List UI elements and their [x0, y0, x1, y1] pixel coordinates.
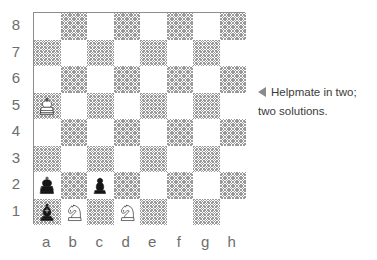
square-g3[interactable]: [193, 146, 220, 173]
square-h8[interactable]: [220, 13, 247, 40]
chess-board-squares: [34, 13, 244, 223]
square-b4[interactable]: [61, 119, 88, 146]
black-pawn-c2[interactable]: [87, 172, 114, 199]
square-d8[interactable]: [114, 13, 141, 40]
square-e1[interactable]: [140, 199, 167, 226]
black-bishop-a1[interactable]: [34, 199, 61, 226]
caption-line-1: Helpmate in two;: [271, 86, 357, 98]
rank-label-3: 3: [6, 150, 26, 165]
square-c5[interactable]: [87, 93, 114, 120]
square-f5[interactable]: [167, 93, 194, 120]
square-a4[interactable]: [34, 119, 61, 146]
square-f2[interactable]: [167, 172, 194, 199]
square-h3[interactable]: [220, 146, 247, 173]
square-g8[interactable]: [193, 13, 220, 40]
chess-board[interactable]: [33, 12, 245, 224]
square-b3[interactable]: [61, 146, 88, 173]
square-e3[interactable]: [140, 146, 167, 173]
square-d4[interactable]: [114, 119, 141, 146]
square-c3[interactable]: [87, 146, 114, 173]
square-d2[interactable]: [114, 172, 141, 199]
square-h1[interactable]: [220, 199, 247, 226]
square-b8[interactable]: [61, 13, 88, 40]
file-label-h: h: [219, 234, 246, 249]
square-h6[interactable]: [220, 66, 247, 93]
file-label-d: d: [113, 234, 140, 249]
file-label-b: b: [60, 234, 87, 249]
square-c8[interactable]: [87, 13, 114, 40]
square-a7[interactable]: [34, 40, 61, 67]
white-king-a5[interactable]: [34, 93, 61, 120]
rank-label-1: 1: [6, 203, 26, 218]
square-d6[interactable]: [114, 66, 141, 93]
white-knight-b1[interactable]: [61, 199, 88, 226]
square-g4[interactable]: [193, 119, 220, 146]
chess-diagram-figure: 87654321 abcdefgh Helpmate in two; two s…: [0, 0, 377, 260]
square-b7[interactable]: [61, 40, 88, 67]
square-f8[interactable]: [167, 13, 194, 40]
square-h2[interactable]: [220, 172, 247, 199]
file-label-f: f: [166, 234, 193, 249]
square-d3[interactable]: [114, 146, 141, 173]
square-a8[interactable]: [34, 13, 61, 40]
square-c7[interactable]: [87, 40, 114, 67]
square-g1[interactable]: [193, 199, 220, 226]
square-c6[interactable]: [87, 66, 114, 93]
square-g7[interactable]: [193, 40, 220, 67]
black-king-a2[interactable]: [34, 172, 61, 199]
square-b5[interactable]: [61, 93, 88, 120]
square-f6[interactable]: [167, 66, 194, 93]
square-f7[interactable]: [167, 40, 194, 67]
square-b6[interactable]: [61, 66, 88, 93]
square-g2[interactable]: [193, 172, 220, 199]
square-e5[interactable]: [140, 93, 167, 120]
caption: Helpmate in two; two solutions.: [258, 83, 376, 121]
file-label-g: g: [192, 234, 219, 249]
square-g6[interactable]: [193, 66, 220, 93]
square-h5[interactable]: [220, 93, 247, 120]
square-b2[interactable]: [61, 172, 88, 199]
file-label-e: e: [139, 234, 166, 249]
square-e8[interactable]: [140, 13, 167, 40]
rank-label-2: 2: [6, 176, 26, 191]
square-e4[interactable]: [140, 119, 167, 146]
square-h7[interactable]: [220, 40, 247, 67]
square-f1[interactable]: [167, 199, 194, 226]
square-h4[interactable]: [220, 119, 247, 146]
square-a6[interactable]: [34, 66, 61, 93]
square-c1[interactable]: [87, 199, 114, 226]
caption-line-2: two solutions.: [258, 102, 376, 121]
rank-label-5: 5: [6, 97, 26, 112]
square-e6[interactable]: [140, 66, 167, 93]
square-a3[interactable]: [34, 146, 61, 173]
square-g5[interactable]: [193, 93, 220, 120]
square-f3[interactable]: [167, 146, 194, 173]
square-d5[interactable]: [114, 93, 141, 120]
rank-label-6: 6: [6, 70, 26, 85]
rank-label-4: 4: [6, 123, 26, 138]
square-d7[interactable]: [114, 40, 141, 67]
file-label-c: c: [86, 234, 113, 249]
file-label-a: a: [33, 234, 60, 249]
square-c4[interactable]: [87, 119, 114, 146]
rank-label-8: 8: [6, 17, 26, 32]
rank-label-7: 7: [6, 44, 26, 59]
square-f4[interactable]: [167, 119, 194, 146]
square-e7[interactable]: [140, 40, 167, 67]
white-knight-d1[interactable]: [114, 199, 141, 226]
square-e2[interactable]: [140, 172, 167, 199]
left-triangle-marker: [258, 87, 266, 97]
